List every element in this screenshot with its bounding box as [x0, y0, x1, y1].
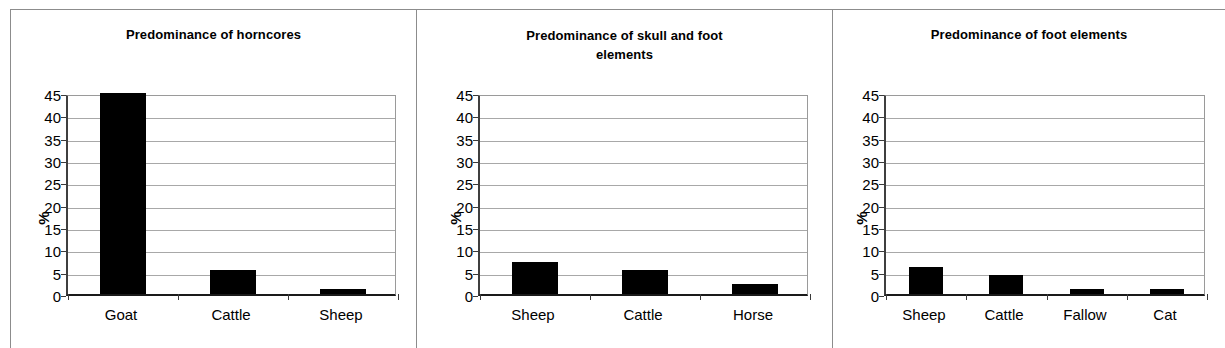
x-tick-mark: [68, 294, 69, 300]
y-tick-label: 30: [456, 155, 473, 170]
y-tick-label: 5: [871, 266, 879, 281]
bar: [732, 284, 778, 294]
x-axis-labels: SheepCattleHorse: [478, 302, 808, 332]
y-tick-label: 0: [871, 289, 879, 304]
x-tick-mark: [590, 294, 591, 300]
x-tick-label: Cattle: [211, 306, 250, 323]
y-tick-label: 30: [862, 155, 879, 170]
x-tick-label: Goat: [105, 306, 138, 323]
x-axis-labels: SheepCattleFallowCat: [884, 302, 1205, 332]
y-tick-label: 35: [456, 132, 473, 147]
y-tick-label: 45: [862, 88, 879, 103]
bar: [512, 262, 558, 294]
x-tick-label: Cattle: [623, 306, 662, 323]
bar: [909, 267, 943, 294]
y-tick-label: 25: [862, 177, 879, 192]
bar-series: [480, 96, 807, 294]
y-tick-label: 20: [44, 199, 61, 214]
bar: [210, 270, 256, 294]
y-tick-label: 40: [456, 110, 473, 125]
y-tick-label: 30: [44, 155, 61, 170]
x-tick-label: Horse: [733, 306, 773, 323]
x-tick-label: Fallow: [1063, 306, 1106, 323]
y-tick-label: 35: [862, 132, 879, 147]
y-tick-label: 45: [44, 88, 61, 103]
bar: [622, 270, 668, 294]
y-tick-mark: [879, 296, 884, 297]
y-tick-label: 15: [862, 222, 879, 237]
bar: [100, 93, 146, 294]
y-axis-ticks: 051015202530354045: [447, 95, 478, 296]
y-tick-label: 40: [44, 110, 61, 125]
x-tick-mark: [178, 294, 179, 300]
chart-title: Predominance of skull and foot elements: [417, 26, 832, 64]
y-axis-ticks: 051015202530354045: [853, 95, 884, 296]
x-tick-mark: [288, 294, 289, 300]
y-tick-label: 20: [456, 199, 473, 214]
chart-title: Predominance of foot elements: [833, 25, 1225, 44]
y-tick-label: 5: [53, 266, 61, 281]
chart-panel-foot-elements: Predominance of foot elements % 05101520…: [833, 9, 1225, 348]
y-tick-label: 10: [862, 244, 879, 259]
chart-title: Predominance of horncores: [11, 25, 416, 44]
x-tick-mark: [810, 294, 811, 300]
plot-area: [66, 95, 396, 296]
y-tick-label: 45: [456, 88, 473, 103]
x-tick-mark: [1127, 294, 1128, 300]
bar-series: [68, 96, 395, 294]
x-tick-mark: [700, 294, 701, 300]
x-tick-mark: [480, 294, 481, 300]
chart-panel-skull-and-foot: Predominance of skull and foot elements …: [417, 9, 832, 348]
y-tick-mark: [473, 296, 478, 297]
plot-area: [478, 95, 808, 296]
figure-container: Predominance of horncores % 051015202530…: [0, 0, 1225, 348]
x-tick-mark: [398, 294, 399, 300]
bar: [989, 275, 1023, 294]
y-tick-label: 10: [44, 244, 61, 259]
y-tick-label: 20: [862, 199, 879, 214]
y-tick-label: 15: [456, 222, 473, 237]
x-tick-label: Cattle: [984, 306, 1023, 323]
plot-wrapper: % 051015202530354045 SheepCattleHorse: [447, 95, 812, 340]
bar: [1150, 289, 1184, 294]
x-tick-mark: [1207, 294, 1208, 300]
plot-wrapper: % 051015202530354045 SheepCattleFallowCa…: [853, 95, 1205, 340]
y-tick-label: 25: [44, 177, 61, 192]
chart-title-line-2: elements: [417, 45, 832, 64]
x-tick-mark: [1047, 294, 1048, 300]
y-tick-label: 15: [44, 222, 61, 237]
y-tick-label: 10: [456, 244, 473, 259]
x-tick-label: Sheep: [319, 306, 362, 323]
bar-series: [886, 96, 1204, 294]
chart-panel-horncores: Predominance of horncores % 051015202530…: [11, 9, 416, 348]
y-tick-label: 35: [44, 132, 61, 147]
x-tick-mark: [966, 294, 967, 300]
x-tick-label: Sheep: [902, 306, 945, 323]
bar: [1070, 289, 1104, 294]
plot-wrapper: % 051015202530354045 GoatCattleSheep: [35, 95, 396, 340]
y-tick-label: 25: [456, 177, 473, 192]
x-axis-labels: GoatCattleSheep: [66, 302, 396, 332]
x-tick-label: Cat: [1153, 306, 1176, 323]
y-tick-label: 0: [465, 289, 473, 304]
plot-area: [884, 95, 1205, 296]
chart-title-line-1: Predominance of skull and foot: [417, 26, 832, 45]
y-tick-mark: [61, 296, 66, 297]
x-tick-mark: [886, 294, 887, 300]
y-tick-label: 40: [862, 110, 879, 125]
y-axis-ticks: 051015202530354045: [35, 95, 66, 296]
x-tick-label: Sheep: [511, 306, 554, 323]
y-tick-label: 0: [53, 289, 61, 304]
y-tick-label: 5: [465, 266, 473, 281]
bar: [320, 289, 366, 294]
